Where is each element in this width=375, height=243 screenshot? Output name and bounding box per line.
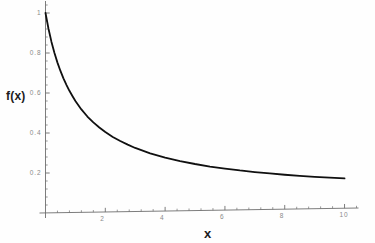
y-axis-tick-label: 0.4	[20, 129, 42, 136]
axes-group	[40, 1, 359, 218]
data-series-line-0	[46, 13, 345, 178]
data-curve-group	[46, 13, 345, 178]
y-axis-tick-label: 0.2	[20, 169, 42, 176]
x-axis-tick-label: 4	[160, 214, 165, 221]
x-axis-tick-label: 8	[280, 212, 285, 219]
axis-ticks-group	[46, 5, 357, 213]
plot-canvas	[0, 0, 375, 243]
x-axis-title: x	[204, 226, 211, 241]
x-axis-line	[40, 208, 359, 213]
y-axis-tick-label: 0.6	[20, 89, 42, 96]
chart-screenshot: f(x) x 2468100.20.40.60.81	[0, 0, 375, 243]
x-axis-tick-label: 10	[340, 211, 349, 218]
y-axis-tick-label: 0.8	[20, 49, 42, 56]
y-axis-tick-label: 1	[20, 9, 42, 16]
x-axis-tick-label: 2	[100, 215, 105, 222]
x-axis-tick-label: 6	[220, 213, 225, 220]
